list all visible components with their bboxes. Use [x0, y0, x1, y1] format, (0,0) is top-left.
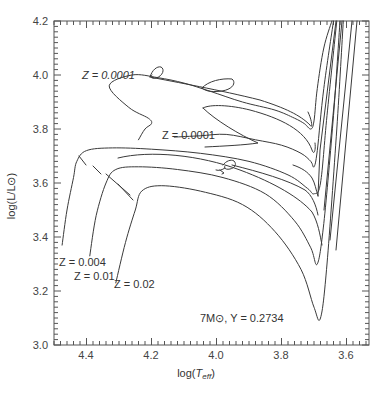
x-tick-label: 4.4: [78, 349, 93, 361]
annotations: Z = 0.0001 Z = 0.0001 Z = 0.004 Z = 0.01…: [59, 69, 284, 324]
hr-diagram-chart: 4.2 4.0 3.8 3.6 3.4 3.2 3.0 4.4 4.2 4.0 …: [0, 0, 390, 393]
y-tick-label: 3.8: [33, 123, 48, 135]
branch-3: [118, 154, 322, 245]
y-tick-label: 3.4: [33, 231, 48, 243]
x-tick-label: 3.8: [273, 349, 288, 361]
y-tick-label: 3.6: [33, 177, 48, 189]
x-tick-label: 4.2: [143, 349, 158, 361]
track-z-0-02: [116, 21, 343, 320]
loop-band-2: [203, 106, 315, 153]
y-tick-label: 3.2: [33, 285, 48, 297]
track-z-0-01: [90, 21, 340, 265]
y-tick-label: 3.0: [33, 339, 48, 351]
label-z-02: Z = 0.02: [114, 278, 155, 290]
zams-kinks: [79, 156, 133, 200]
label-mass-helium: 7M⊙, Y = 0.2734: [200, 312, 284, 324]
kink-02: [118, 184, 133, 200]
label-z-004: Z = 0.004: [59, 256, 106, 268]
y-tick-label: 4.2: [33, 15, 48, 27]
kink-01a: [93, 166, 101, 174]
label-z-0001-top: Z = 0.0001: [81, 69, 135, 81]
x-axis-title: log(Teff): [177, 367, 215, 381]
x-tick-labels: 4.4 4.2 4.0 3.8 3.6: [78, 349, 353, 361]
x-tick-label: 3.6: [338, 349, 353, 361]
loop-band-3: [203, 108, 258, 147]
loop-band-1: [150, 77, 312, 126]
branch-2: [232, 165, 318, 215]
y-tick-labels: 4.2 4.0 3.8 3.6 3.4 3.2 3.0: [33, 15, 48, 351]
label-z-01: Z = 0.01: [74, 270, 115, 282]
label-z-0001-mid: Z = 0.0001: [162, 129, 215, 141]
x-tick-label: 4.0: [208, 349, 223, 361]
y-tick-label: 4.0: [33, 69, 48, 81]
y-axis-title: log(L/L⊙): [5, 173, 17, 219]
kink-004: [79, 156, 86, 165]
